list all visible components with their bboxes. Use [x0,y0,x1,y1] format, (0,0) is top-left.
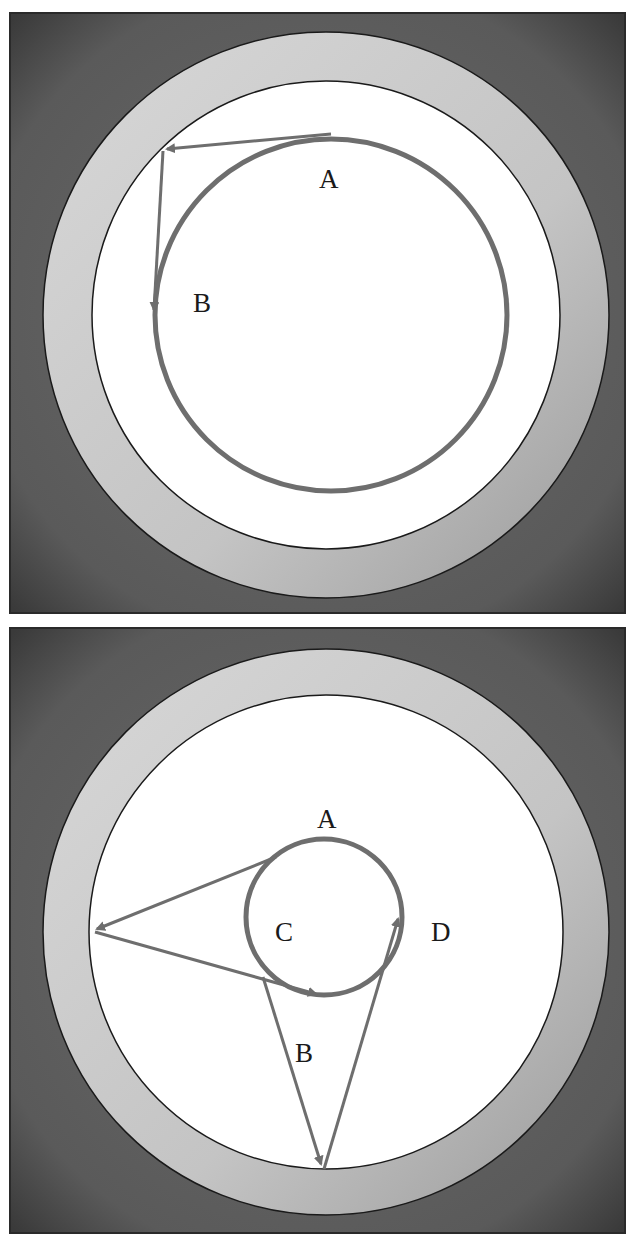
orbit-diagram-bottom: A C D B [11,629,624,1232]
label-a: A [319,164,339,194]
label-a: A [317,804,337,834]
label-c: C [275,917,293,947]
diagram-panel-bottom: A C D B [9,627,626,1234]
orbit-diagram-top: A B [11,14,624,612]
label-b: B [295,1038,313,1068]
label-d: D [431,917,451,947]
label-b: B [193,288,211,318]
inner-disc [89,695,563,1169]
diagram-panel-top: A B [9,12,626,614]
